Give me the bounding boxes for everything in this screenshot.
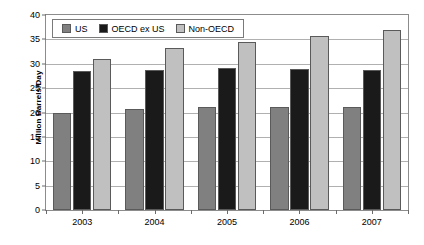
bar-series-layer — [46, 15, 408, 210]
bar — [145, 70, 164, 210]
bar — [165, 48, 184, 210]
x-axis-tick — [299, 210, 300, 214]
y-axis-tick-label: 25 — [0, 83, 46, 93]
bar-group — [53, 15, 112, 210]
x-axis-boundary-tick — [191, 210, 192, 214]
chart-legend: USOECD ex USNon-OECD — [52, 19, 244, 38]
y-axis-tick-label: 35 — [0, 34, 46, 44]
x-axis-boundary-tick — [408, 210, 409, 214]
legend-item: OECD ex US — [99, 24, 165, 34]
x-axis-tick-label: 2005 — [217, 217, 237, 227]
y-axis-tick-label: 40 — [0, 10, 46, 20]
y-axis-tick-label: 5 — [0, 181, 46, 191]
legend-label: OECD ex US — [112, 24, 165, 34]
bar — [218, 68, 237, 210]
bar — [53, 113, 72, 211]
y-axis-tick-label: 10 — [0, 156, 46, 166]
y-axis-tick-label: 0 — [0, 205, 46, 215]
bar — [363, 70, 382, 210]
bar — [343, 107, 362, 210]
bar — [198, 107, 217, 210]
plot-area: 0510152025303540 20032004200520062007 — [45, 14, 409, 211]
bar — [290, 69, 309, 210]
legend-label: Non-OECD — [189, 24, 235, 34]
legend-swatch-icon — [62, 24, 71, 33]
y-axis-tick-label: 15 — [0, 132, 46, 142]
y-axis-tick-label: 20 — [0, 108, 46, 118]
x-axis-tick — [372, 210, 373, 214]
bar — [238, 42, 257, 210]
bar-chart: Million Barrels/Day 0510152025303540 200… — [0, 0, 424, 245]
x-axis-boundary-tick — [118, 210, 119, 214]
x-axis-tick — [82, 210, 83, 214]
x-axis-tick — [227, 210, 228, 214]
x-axis-tick-label: 2004 — [145, 217, 165, 227]
x-axis-boundary-tick — [263, 210, 264, 214]
bar — [310, 36, 329, 210]
x-axis-tick — [155, 210, 156, 214]
bar — [73, 71, 92, 210]
bar-group — [270, 15, 329, 210]
x-axis-tick-label: 2006 — [289, 217, 309, 227]
y-axis-tick-label: 30 — [0, 59, 46, 69]
bar — [93, 59, 112, 210]
x-axis-boundary-tick — [336, 210, 337, 214]
legend-swatch-icon — [176, 24, 185, 33]
bar-group — [343, 15, 402, 210]
legend-swatch-icon — [99, 24, 108, 33]
bar-group — [198, 15, 257, 210]
legend-item: US — [62, 24, 88, 34]
bar-group — [125, 15, 184, 210]
bar — [383, 30, 402, 210]
legend-item: Non-OECD — [176, 24, 235, 34]
x-axis-tick-label: 2003 — [72, 217, 92, 227]
x-axis-boundary-tick — [46, 210, 47, 214]
bar — [125, 109, 144, 210]
x-axis-tick-label: 2007 — [362, 217, 382, 227]
legend-label: US — [75, 24, 88, 34]
bar — [270, 107, 289, 210]
